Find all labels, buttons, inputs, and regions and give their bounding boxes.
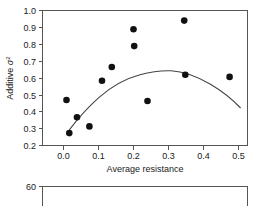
x-tick-label: 0.3 [162,151,175,161]
y-axis-ticks [39,11,43,146]
y-tick-label: 0.5 [23,91,36,101]
y-tick-label: 1.0 [23,6,36,16]
bottom-panel-frame [43,187,248,207]
y-tick-label: 0.2 [23,141,36,151]
y-axis-title-prefix: Additive [5,65,15,100]
data-point [63,97,70,104]
y-axis-tick-labels: 1.0 0.9 0.8 0.7 0.6 0.5 0.4 0.3 0.2 [23,6,36,151]
top-panel: 1.0 0.9 0.8 0.7 0.6 0.5 0.4 0.3 0.2 [5,6,248,174]
data-point [74,114,81,121]
y-tick-label: 0.7 [23,57,36,67]
x-tick-label: 0.1 [92,151,105,161]
data-point [99,77,106,84]
x-tick-label: 0.5 [232,151,245,161]
fitted-curve [69,71,240,130]
y-tick-label: 0.3 [23,124,36,134]
x-axis-title: Average resistance [107,164,184,174]
data-point [131,43,138,50]
data-point [226,74,233,81]
y-axis-title: Additive σ2 [5,56,15,100]
data-point [66,130,73,137]
data-point [109,64,116,71]
data-point [144,98,151,105]
x-tick-label: 0.2 [127,151,140,161]
y-tick-label: 0.9 [23,23,36,33]
y-tick-label: 0.4 [23,107,36,117]
x-tick-label: 0.4 [197,151,210,161]
data-point [182,71,189,78]
x-axis-ticks [64,146,239,150]
scatter-plot-figure: 1.0 0.9 0.8 0.7 0.6 0.5 0.4 0.3 0.2 [0,0,256,206]
x-axis-tick-labels: 0.0 0.1 0.2 0.3 0.4 0.5 [57,151,245,161]
data-point [181,17,188,24]
y-axis-title-exponent: 2 [5,56,11,60]
svg-text:Additive σ2: Additive σ2 [5,56,15,100]
data-point [130,26,137,33]
figure-container: 1.0 0.9 0.8 0.7 0.6 0.5 0.4 0.3 0.2 [0,0,256,206]
y-tick-label: 0.6 [23,74,36,84]
y-tick-label: 0.8 [23,40,36,50]
data-point [86,123,93,130]
bottom-panel-y-tick-label: 60 [26,182,36,192]
data-points-group [63,17,233,136]
x-tick-label: 0.0 [57,151,70,161]
